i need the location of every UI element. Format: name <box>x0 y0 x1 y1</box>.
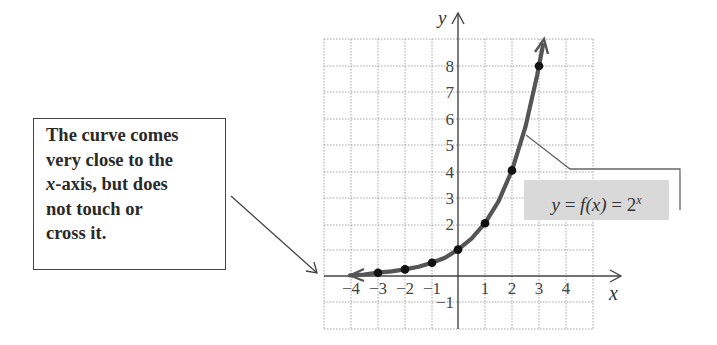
point-neg2 <box>401 265 410 274</box>
point-neg3 <box>374 268 383 277</box>
formula-fx: f(x) <box>580 194 606 215</box>
y-tick-2: 2 <box>446 215 455 234</box>
callout-line-5: cross it. <box>46 223 106 243</box>
callout-text: The curve comesvery close to thex-axis, … <box>46 123 225 246</box>
formula-base: 2 <box>627 194 637 215</box>
y-tick-7: 7 <box>446 83 455 102</box>
point-neg1 <box>428 259 437 268</box>
x-tick-4: 4 <box>562 279 571 298</box>
callout-line-4: not touch or <box>46 199 143 219</box>
x-tick-neg2: −2 <box>396 279 414 298</box>
x-tick-3: 3 <box>535 279 544 298</box>
y-tick-6: 6 <box>446 110 455 129</box>
point-3 <box>535 62 544 71</box>
callout-line-1: The curve comes <box>46 125 179 145</box>
y-tick-8: 8 <box>446 57 455 76</box>
x-tick-neg1: −1 <box>423 279 441 298</box>
formula-label: y = f(x) = 2x <box>524 180 669 220</box>
x-axis-label: x <box>608 282 618 304</box>
y-tick-5: 5 <box>446 136 455 155</box>
formula-lhs: y <box>551 194 559 215</box>
exponential-curve <box>350 45 543 275</box>
formula-equals-2: = <box>611 194 622 215</box>
y-axis-label: y <box>436 7 447 28</box>
x-tick-2: 2 <box>508 279 517 298</box>
point-1 <box>481 219 490 228</box>
y-tick-4: 4 <box>446 163 455 182</box>
y-tick-labels: 8 7 6 5 4 3 2 −1 <box>436 57 455 312</box>
x-tick-neg4: −4 <box>342 279 361 298</box>
point-2 <box>508 166 517 175</box>
callout-line-3: x-axis, but does <box>46 174 168 194</box>
x-tick-neg3: −3 <box>369 279 387 298</box>
asymptote-callout: The curve comesvery close to thex-axis, … <box>33 118 226 270</box>
formula-text: y = f(x) = 2x <box>524 180 669 220</box>
callout-arrow <box>231 196 317 273</box>
y-tick-3: 3 <box>446 189 455 208</box>
x-tick-1: 1 <box>481 279 490 298</box>
formula-exponent: x <box>636 193 641 207</box>
point-0 <box>454 245 463 254</box>
formula-equals-1: = <box>565 194 576 215</box>
callout-line-2: very close to the <box>46 150 173 170</box>
x-tick-labels: −4 −3 −2 −1 1 2 3 4 <box>342 279 571 298</box>
